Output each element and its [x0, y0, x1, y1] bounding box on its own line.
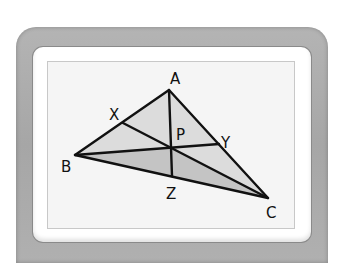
label-c: C: [266, 204, 276, 222]
label-p: P: [176, 126, 185, 144]
label-b: B: [61, 158, 71, 176]
label-y: Y: [220, 134, 231, 152]
label-z: Z: [166, 185, 176, 203]
triangle-diagram: A B C X Y Z P: [0, 0, 344, 277]
label-x: X: [109, 106, 119, 124]
label-a: A: [170, 70, 181, 88]
